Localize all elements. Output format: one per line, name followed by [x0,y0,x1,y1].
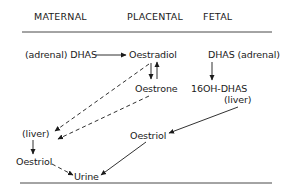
arrow-oestradiol-to-liver [55,64,149,131]
node-maternal-liver: (liver) [22,128,49,139]
node-oestradiol: Oestradiol [129,49,177,60]
node-oestrone: Oestrone [135,83,178,94]
arrow-oestriol-to-urine [52,164,73,175]
header-maternal: MATERNAL [34,11,87,22]
arrow-placental-oestriol-to-urine [101,142,146,175]
node-16oh-dhas: 16OH-DHAS [191,83,247,94]
header-placental: PLACENTAL [127,11,183,22]
node-fetal-liver: (liver) [224,94,251,105]
node-fetal-dhas: DHAS (adrenal) [208,49,280,60]
node-urine: Urine [74,171,99,182]
node-maternal-oestriol: Oestriol [16,156,52,167]
header-fetal: FETAL [203,11,232,22]
node-maternal-dhas: (adrenal) DHAS [25,49,97,60]
node-placental-oestriol: Oestriol [130,130,166,141]
arrow-fetal-liver-to-oestriol [169,107,238,133]
